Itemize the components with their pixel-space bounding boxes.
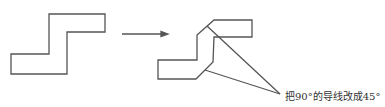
trace-90-degree — [11, 14, 105, 74]
leader-line-top — [207, 26, 280, 94]
leader-line-bottom — [205, 70, 280, 94]
annotation-label: 把90°的导线改成45° — [285, 88, 380, 103]
arrow-icon — [122, 32, 168, 37]
